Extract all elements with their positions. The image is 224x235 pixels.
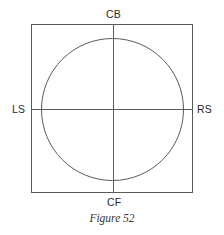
figure-52: CB CF LS RS Figure 52 [0,0,224,235]
label-bottom-cf: CF [107,197,121,208]
label-top-cb: CB [106,9,121,20]
figure-caption: Figure 52 [0,213,224,225]
outer-square [32,25,193,193]
label-left-ls: LS [12,104,25,115]
label-right-rs: RS [197,104,212,115]
